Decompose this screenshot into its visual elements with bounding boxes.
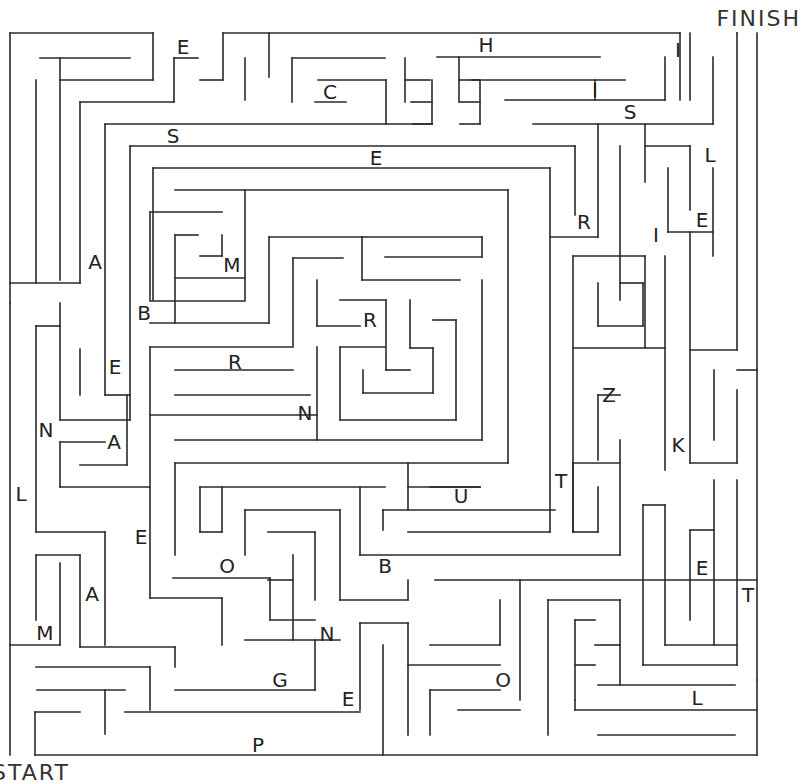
maze-letter: A [88,252,102,272]
maze-letter: S [624,102,637,122]
maze-letter: E [135,527,148,547]
maze-letter: M [223,255,240,275]
maze-letter: E [370,148,383,168]
maze-letter: I [592,80,598,100]
maze-letter: O [495,670,511,690]
maze-letter: I [675,40,681,60]
maze-letter: C [323,82,337,102]
maze-letter: S [167,126,180,146]
maze-letter: E [696,558,709,578]
maze-letter: P [252,735,264,755]
maze-letter: O [219,556,235,576]
finish-label: FINISH [716,8,801,30]
maze-letter: K [671,435,684,455]
maze-letter: T [555,471,567,491]
maze-letter: E [177,37,190,57]
maze-letter: N [298,403,313,423]
maze-letter: H [478,35,493,55]
maze-letter: L [704,145,715,165]
maze-letter: G [272,670,288,690]
maze-letter: Z [602,385,616,405]
maze-letter: E [109,357,122,377]
maze-letter: E [696,210,709,230]
maze-letter: M [36,623,53,643]
maze-letter: E [342,689,355,709]
maze-letter: A [107,432,121,452]
maze-letter: T [742,585,754,605]
maze-letter: N [320,624,335,644]
maze-letter: R [228,352,242,372]
maze-letter: L [15,484,26,504]
maze-letter: B [378,556,392,576]
maze-letter: I [653,225,659,245]
maze-letter: A [85,584,99,604]
maze-letter: B [137,303,151,323]
maze-letter: L [691,688,702,708]
maze-letter: U [454,486,469,506]
maze-letter: N [39,420,54,440]
start-label: START [0,762,70,784]
maze-letter: R [363,310,377,330]
maze-letter: R [577,212,591,232]
